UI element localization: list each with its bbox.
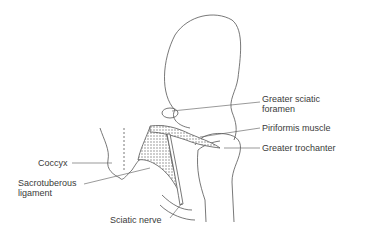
ischial-curve [160,205,195,220]
label-greater-sciatic-foramen: Greater sciatic foramen [262,94,320,114]
label-line: ligament [18,188,77,198]
label-sacrotuberous-ligament: Sacrotuberous ligament [18,178,77,198]
foramen-shape [162,108,178,118]
femur-inner [197,150,206,222]
label-greater-trochanter: Greater trochanter [262,143,336,153]
ischium-outline [173,110,190,128]
label-line: foramen [262,104,320,114]
label-line: Sacrotuberous [18,178,77,188]
label-coccyx: Coccyx [38,158,68,168]
ischial-curve-2 [162,195,192,210]
label-sciatic-nerve: Sciatic nerve [110,215,162,225]
anatomy-illustration [0,0,369,234]
label-piriformis-muscle: Piriformis muscle [262,123,331,133]
label-line: Greater sciatic [262,94,320,104]
